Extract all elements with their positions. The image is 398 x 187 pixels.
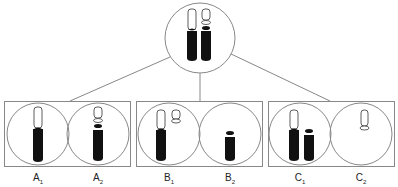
chromosome-a2 — [93, 107, 103, 161]
label-b1: B1 — [164, 172, 174, 185]
label-a2: A2 — [93, 172, 103, 185]
parent-chromosome-right — [201, 9, 211, 61]
chromosome-a1 — [33, 107, 43, 162]
connector-line-c — [229, 53, 330, 101]
label-c2: C2 — [356, 172, 367, 185]
label-b2: B2 — [225, 172, 235, 185]
label-c1: C1 — [295, 172, 306, 185]
parent-cell — [165, 3, 235, 73]
chromosome-division-diagram — [0, 0, 398, 187]
parent-chromosome-left — [187, 9, 197, 61]
connector-line-a — [70, 57, 170, 101]
label-a1: A1 — [33, 172, 43, 185]
chromosome-c2 — [360, 110, 369, 130]
